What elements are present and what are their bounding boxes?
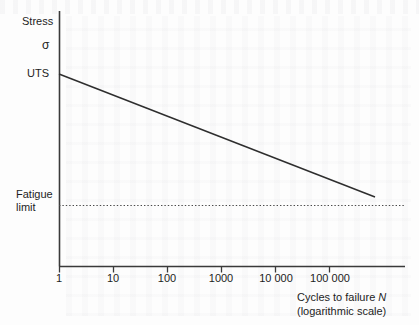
x-axis-title-line1: Cycles to failure N bbox=[297, 290, 386, 304]
x-tick-label-1000: 1000 bbox=[209, 272, 233, 285]
x-tick-label-1: 1 bbox=[56, 272, 62, 285]
x-tick-label-10000: 10 000 bbox=[259, 272, 293, 285]
x-axis-title: Cycles to failure N (logarithmic scale) bbox=[297, 290, 386, 318]
y-axis-label-uts: UTS bbox=[27, 67, 49, 80]
sn-curve-figure: Stress σ UTS Fatigue limit 1 10 100 1000… bbox=[0, 0, 419, 325]
x-axis-title-line2: (logarithmic scale) bbox=[297, 304, 386, 318]
fatigue-limit-label-line2: limit bbox=[16, 201, 53, 214]
sn-curve-line bbox=[59, 74, 375, 197]
fatigue-limit-label: Fatigue limit bbox=[16, 188, 53, 214]
y-axis-label-stress: Stress bbox=[22, 15, 53, 28]
x-axis-title-text: Cycles to failure bbox=[297, 291, 378, 303]
x-tick-label-100: 100 bbox=[158, 272, 176, 285]
x-tick-label-100000: 100 000 bbox=[310, 272, 350, 285]
x-axis-title-symbol-n: N bbox=[378, 291, 386, 303]
fatigue-limit-label-line1: Fatigue bbox=[16, 188, 53, 201]
x-tick-label-10: 10 bbox=[107, 272, 119, 285]
y-axis-label-sigma: σ bbox=[42, 39, 49, 52]
